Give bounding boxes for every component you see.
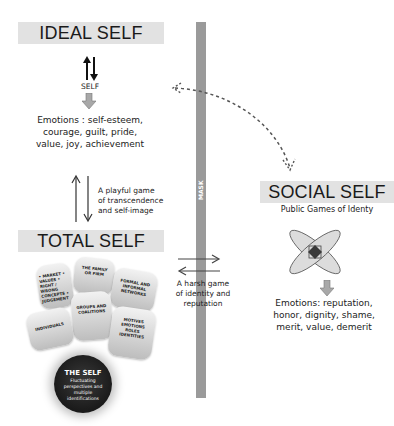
core-title: THE SELF xyxy=(54,369,112,378)
ideal-emotions-line: value, joy, achievement xyxy=(20,138,160,150)
ideal-self-title: IDEAL SELF xyxy=(18,22,164,44)
ideal-self-emotions: Emotions : self-esteem, courage, guilt, … xyxy=(20,114,160,150)
crossed-petals-icon xyxy=(280,222,350,282)
core-subtitle: Fluctuating perspectives and multiple id… xyxy=(54,378,112,402)
playful-game-note: A playful game of transcendence and self… xyxy=(98,186,178,216)
note-line: reputation xyxy=(170,299,236,309)
self-label: SELF xyxy=(70,82,110,92)
segment-market-values: • MARKET • VALUES • RIGHT / WRONG CONCEP… xyxy=(35,262,75,310)
segment-label: THE FAMILY OR FIRM xyxy=(78,264,111,277)
total-self-title: TOTAL SELF xyxy=(18,230,164,252)
social-self-title: SOCIAL SELF xyxy=(260,181,394,203)
segment-motives-roles: MOTIVES EMOTIONS ROLES IDENTITIES xyxy=(107,305,158,361)
note-line: of identity and xyxy=(170,289,236,299)
segment-label: FORMAL AND INFORMAL NETWORKS xyxy=(115,277,153,298)
segment-label: MOTIVES EMOTIONS ROLES IDENTITIES xyxy=(115,316,149,340)
social-emotions-line: Emotions: reputation, xyxy=(254,297,394,309)
note-line: and self-image xyxy=(98,206,178,216)
dashed-curved-arrow xyxy=(165,80,305,180)
segment-groups-coalitions: GROUPS AND COALITIONS xyxy=(70,291,113,342)
block-arrow-down-icon xyxy=(82,93,96,109)
social-emotions-line: honor, dignity, shame, xyxy=(254,309,394,321)
exchange-arrows-icon xyxy=(176,253,222,277)
segment-label: GROUPS AND COALITIONS xyxy=(75,303,108,315)
ideal-emotions-line: Emotions : self-esteem, xyxy=(20,114,160,126)
segment-individuals: INDIVIDUALS xyxy=(25,306,76,352)
note-line: of transcendence xyxy=(98,196,178,206)
bidirectional-arrows-icon xyxy=(80,56,100,82)
social-self-emotions: Emotions: reputation, honor, dignity, sh… xyxy=(254,297,394,333)
the-self-core: THE SELF Fluctuating perspectives and mu… xyxy=(54,355,112,413)
social-emotions-line: merit, value, demerit xyxy=(254,321,394,333)
segment-networks: FORMAL AND INFORMAL NETWORKS xyxy=(109,266,159,313)
mask-bar xyxy=(196,22,206,398)
social-self-subtitle: Public Games of Identy xyxy=(260,205,394,215)
up-down-arrows-icon xyxy=(70,174,94,224)
harsh-game-note: A harsh game of identity and reputation xyxy=(170,279,236,309)
block-arrow-down-icon xyxy=(320,280,334,296)
segment-label: INDIVIDUALS xyxy=(31,320,67,332)
total-self-segments: • MARKET • VALUES • RIGHT / WRONG CONCEP… xyxy=(28,258,158,368)
note-line: A harsh game xyxy=(170,279,236,289)
ideal-emotions-line: courage, guilt, pride, xyxy=(20,126,160,138)
segment-family-firm: THE FAMILY OR FIRM xyxy=(72,256,116,296)
note-line: A playful game xyxy=(98,186,178,196)
segment-label: • MARKET • VALUES • RIGHT / WRONG CONCEP… xyxy=(38,270,72,304)
